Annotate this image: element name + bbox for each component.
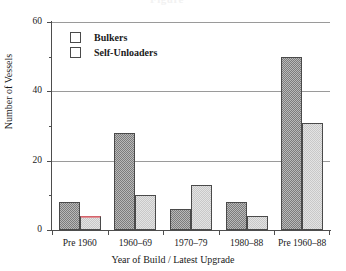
bar-self-unloaders-1: [135, 195, 156, 230]
bar-self-unloaders-4: [302, 123, 323, 230]
gridline-60: [52, 22, 330, 23]
bar-bulkers-2: [170, 209, 191, 230]
bar-bulkers-1: [114, 133, 135, 230]
y-tick-label-20: 20: [16, 155, 42, 165]
bar-bulkers-0: [59, 202, 80, 230]
y-minor-tick-30: [49, 126, 52, 127]
y-minor-tick-10: [49, 195, 52, 196]
dark-hatched-swatch: [70, 32, 81, 43]
x-tick-3: [219, 230, 220, 235]
legend-item-bulkers: Bulkers: [70, 30, 157, 45]
y-tick-60: [47, 22, 52, 23]
x-axis-line: [51, 230, 331, 231]
x-tick-2: [163, 230, 164, 235]
y-tick-label-0: 0: [16, 224, 42, 234]
bar-self-unloaders-2: [191, 185, 212, 230]
y-tick-40: [47, 91, 52, 92]
y-tick-label-40: 40: [16, 85, 42, 95]
bar-self-unloaders-0: [80, 216, 101, 230]
y-tick-20: [47, 161, 52, 162]
bar-bulkers-3: [226, 202, 247, 230]
legend-label-0: Bulkers: [94, 32, 127, 43]
y-minor-tick-50: [49, 57, 52, 58]
x-tick-4: [274, 230, 275, 235]
x-axis-title: Year of Build / Latest Upgrade: [0, 254, 346, 265]
chart-legend: BulkersSelf-Unloaders: [70, 30, 157, 60]
y-tick-label-60: 60: [16, 16, 42, 26]
light-hatched-swatch: [70, 47, 81, 58]
bar-chart-figure: Number of Vessels Year of Build / Latest…: [0, 0, 346, 271]
plot-area: 0204060 Pre 19601960–691970–791980–88Pre…: [52, 22, 330, 230]
x-tick-1: [108, 230, 109, 235]
bar-bulkers-4: [281, 57, 302, 230]
x-tick-5: [329, 230, 330, 235]
x-tick-0: [52, 230, 53, 235]
bar-self-unloaders-3: [247, 216, 268, 230]
legend-label-1: Self-Unloaders: [94, 47, 157, 58]
y-axis-title: Number of Vessels: [3, 22, 14, 162]
x-category-label-4: Pre 1960–88: [264, 238, 340, 248]
legend-item-self-unloaders: Self-Unloaders: [70, 45, 157, 60]
